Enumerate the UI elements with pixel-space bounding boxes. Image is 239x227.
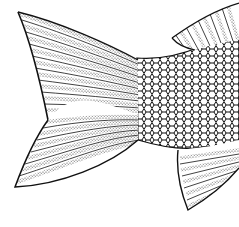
caudal-fin-lower-lobe xyxy=(0,100,140,195)
caudal-peduncle-scales xyxy=(137,38,239,150)
anal-fin-partial xyxy=(170,140,239,215)
fish-tail-drawing xyxy=(0,0,239,227)
